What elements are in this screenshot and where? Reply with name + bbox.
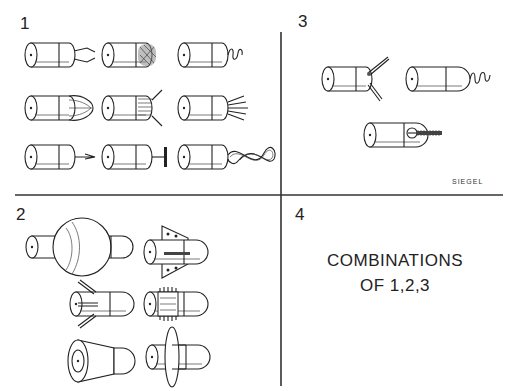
corkscrew-tip-icon <box>406 67 490 91</box>
v-prongs-tip-icon <box>322 57 389 101</box>
quadrant-3-label: 3 <box>298 12 307 32</box>
screw-tip-icon <box>364 123 442 147</box>
quadrant-2-label: 2 <box>16 205 25 225</box>
twisted-loop-tip-icon <box>178 145 275 169</box>
cone-attachment-icon <box>68 340 135 382</box>
quadrant-1-drawings <box>25 43 275 169</box>
quadrant-2-drawings <box>26 218 210 387</box>
mesh-tip-icon <box>102 43 156 67</box>
pincer-tip-icon <box>25 43 95 67</box>
quadrant-3-drawings <box>322 57 490 147</box>
fins-attachment-icon <box>144 226 208 278</box>
sphere-attachment-icon <box>26 218 133 276</box>
quadrant-1-label: 1 <box>20 14 29 34</box>
disc-attachment-icon <box>146 327 210 387</box>
splayed-prongs-tip-icon <box>102 90 162 126</box>
hook-tip-icon <box>25 145 95 169</box>
bristles-tip-icon <box>178 96 248 120</box>
quadrant-4-label: 4 <box>295 205 304 225</box>
toothed-ring-attachment-icon <box>144 287 208 321</box>
diagram-canvas <box>0 0 516 391</box>
coil-tip-icon <box>178 43 242 67</box>
combinations-caption: COMBINATIONS OF 1,2,3 <box>300 248 490 298</box>
t-bar-tip-icon <box>102 145 167 169</box>
side-prongs-attachment-icon <box>70 280 134 328</box>
combinations-line-2: OF 1,2,3 <box>300 273 490 298</box>
loops-tip-icon <box>25 96 93 121</box>
combinations-line-1: COMBINATIONS <box>300 248 490 273</box>
artist-signature: SIEGEL <box>452 178 483 185</box>
